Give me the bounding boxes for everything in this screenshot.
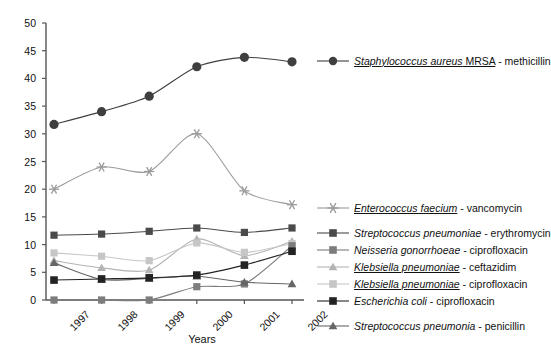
series-5: [50, 235, 297, 274]
legend-top: Staphylococcus aureus MRSA - methicillin: [316, 52, 551, 69]
data-point-marker: [97, 163, 107, 172]
data-point-marker: [329, 297, 337, 305]
data-point-marker: [192, 129, 202, 138]
legend-separator: -: [457, 202, 466, 214]
square-marker-icon: [316, 294, 350, 308]
legend-item-label: Escherichia coli - ciprofloxacin: [354, 295, 495, 307]
data-point-marker: [241, 261, 249, 269]
data-point-marker: [241, 229, 248, 236]
asterisk-marker-icon: [316, 201, 350, 215]
data-point-marker: [49, 185, 59, 194]
data-point-marker: [145, 274, 153, 282]
legend-organism-name: Streptococcus pneumonia: [354, 320, 475, 332]
legend-antibiotic-name: ceftazidim: [469, 261, 516, 273]
series-2: [49, 129, 297, 209]
legend-item-label: Neisseria gonorrhoeae - ciprofloxacin: [354, 244, 528, 256]
data-point-marker: [193, 271, 201, 279]
data-point-marker: [329, 56, 337, 64]
legend-item-label: Enterococcus faecium - vancomycin: [354, 202, 522, 214]
data-point-marker: [97, 107, 106, 116]
legend-item-label: Streptococcus pneumonia - penicillin: [354, 320, 525, 332]
data-point-marker: [193, 283, 200, 290]
legend-antibiotic-name: ciprofloxacin: [470, 244, 528, 256]
legend-bottom: Enterococcus faecium - vancomycinStrepto…: [316, 199, 551, 334]
axis-lines: [46, 23, 304, 300]
legend-organism-name: Neisseria gonorrhoeae: [354, 244, 460, 256]
legend-antibiotic-name: ciprofloxacin: [469, 278, 527, 290]
legend-separator: -: [427, 295, 436, 307]
data-point-marker: [288, 247, 296, 255]
legend-item[interactable]: Staphylococcus aureus MRSA - methicillin: [316, 52, 551, 69]
legend-item[interactable]: Klebsiella pneumoniae - ciprofloxacin: [316, 275, 551, 292]
data-point-marker: [329, 262, 338, 270]
data-point-marker: [327, 203, 338, 213]
data-point-marker: [50, 276, 58, 284]
series-6: [50, 239, 295, 264]
data-point-marker: [146, 228, 153, 235]
data-point-marker: [146, 296, 153, 303]
data-point-marker: [98, 296, 105, 303]
legend-separator: -: [460, 244, 469, 256]
data-point-marker: [50, 232, 57, 239]
legend-antibiotic-name: methicillin: [505, 55, 551, 67]
legend-antibiotic-name: penicillin: [485, 320, 525, 332]
data-point-marker: [49, 120, 58, 129]
data-point-marker: [192, 62, 201, 71]
data-point-marker: [241, 249, 248, 256]
circle-marker-icon: [316, 54, 350, 68]
data-point-marker: [50, 296, 57, 303]
data-point-marker: [329, 246, 337, 254]
legend-separator: -: [475, 320, 484, 332]
data-point-marker: [329, 229, 337, 237]
triangle-marker-icon: [316, 319, 350, 333]
legend-item[interactable]: Streptococcus pneumoniae - erythromycin: [316, 224, 551, 241]
legend-organism-name: Klebsiella pneumoniae: [354, 278, 460, 290]
legend-antibiotic-name: ciprofloxacin: [436, 295, 494, 307]
legend-organism-name: Escherichia coli: [354, 295, 427, 307]
x-axis-title: Years: [142, 333, 262, 345]
data-point-marker: [98, 275, 106, 283]
legend-separator: -: [460, 261, 469, 273]
legend-antibiotic-name: vancomycin: [467, 202, 522, 214]
legend-organism-name: Staphylococcus aureus: [354, 55, 463, 67]
legend-item-label: Klebsiella pneumoniae - ceftazidim: [354, 261, 516, 273]
legend-organism-name: Streptococcus pneumoniae: [354, 227, 481, 239]
data-point-marker: [145, 266, 154, 274]
data-point-marker: [193, 224, 200, 231]
legend-separator: -: [460, 278, 469, 290]
legend-item[interactable]: Escherichia coli - ciprofloxacin: [316, 292, 551, 309]
legend-item[interactable]: Klebsiella pneumoniae - ceftazidim: [316, 258, 551, 275]
data-point-marker: [98, 253, 105, 260]
legend-item-label: Staphylococcus aureus MRSA - methicillin: [354, 55, 551, 67]
series-8: [50, 259, 297, 288]
legend-item[interactable]: Enterococcus faecium - vancomycin: [316, 199, 551, 216]
data-point-marker: [329, 280, 337, 288]
data-point-marker: [329, 321, 338, 329]
legend-organism-name: Enterococcus faecium: [354, 202, 457, 214]
legend-item-label: Streptococcus pneumoniae - erythromycin: [354, 227, 551, 239]
legend-separator: -: [495, 55, 504, 67]
data-point-marker: [288, 224, 295, 231]
square-marker-icon: [316, 226, 350, 240]
data-point-marker: [50, 249, 57, 256]
legend-item[interactable]: Streptococcus pneumonia - penicillin: [316, 317, 551, 334]
square-marker-icon: [316, 243, 350, 257]
legend-separator: -: [481, 227, 490, 239]
data-point-marker: [145, 92, 154, 101]
data-point-marker: [287, 57, 296, 66]
data-point-marker: [193, 239, 200, 246]
legend-item-label: Klebsiella pneumoniae - ciprofloxacin: [354, 278, 527, 290]
data-point-marker: [287, 200, 297, 209]
data-point-marker: [146, 257, 153, 264]
legend-organism-suffix: MRSA: [463, 55, 496, 67]
legend-antibiotic-name: erythromycin: [491, 227, 551, 239]
data-point-marker: [144, 167, 154, 176]
triangle-marker-icon: [316, 260, 350, 274]
data-point-marker: [98, 230, 105, 237]
square-marker-icon: [316, 277, 350, 291]
legend-organism-name: Klebsiella pneumoniae: [354, 261, 460, 273]
series-1: [49, 53, 296, 129]
series-3: [50, 224, 295, 238]
legend-item[interactable]: Neisseria gonorrhoeae - ciprofloxacin: [316, 241, 551, 258]
